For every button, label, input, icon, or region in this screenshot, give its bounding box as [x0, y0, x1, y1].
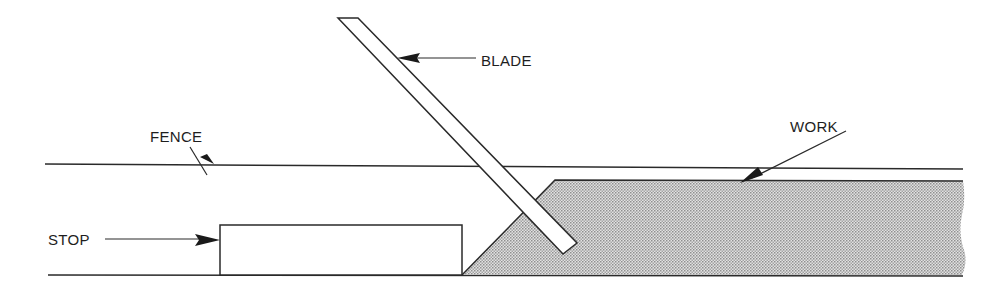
- work-label: WORK: [790, 118, 838, 135]
- blade: [338, 18, 577, 254]
- table-line: [48, 275, 963, 276]
- stop-arrowhead-icon: [195, 234, 220, 246]
- stop-block: [220, 225, 462, 275]
- work-leader: [752, 131, 846, 178]
- fence-label: FENCE: [150, 128, 202, 145]
- stop-label: STOP: [48, 231, 90, 248]
- fence-leader: [190, 147, 207, 175]
- diagram-canvas: FENCE BLADE WORK STOP: [0, 0, 1004, 298]
- blade-label: BLADE: [481, 52, 532, 69]
- fence-arrowhead-icon: [200, 154, 214, 164]
